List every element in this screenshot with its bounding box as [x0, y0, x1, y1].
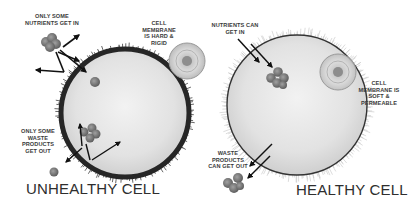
unhealthy-cell-title: UNHEALTHY CELL — [26, 180, 160, 197]
unhealthy-nutrient-inside — [90, 77, 100, 87]
healthy-waste-cluster — [223, 173, 244, 193]
unhealthy-membrane-label: CELL MEMBRANE IS HARD & RIGID — [142, 20, 176, 46]
healthy-cell-title: HEALTHY CELL — [296, 181, 408, 198]
unhealthy-waste-outside — [50, 168, 59, 177]
unhealthy-cell — [36, 33, 205, 183]
healthy-nutrients-label: NUTRIENTS CAN GET IN — [210, 22, 260, 35]
unhealthy-waste-label: ONLY SOME WASTE PRODUCTS GET OUT — [19, 128, 57, 154]
healthy-membrane-label: CELL MEMBRANE IS SOFT & PERMEABLE — [357, 80, 401, 106]
unhealthy-nutrient-cluster — [41, 33, 61, 52]
unhealthy-vacuole — [169, 43, 205, 79]
healthy-waste-label: WASTE PRODUCTS CAN GET OUT — [207, 150, 249, 170]
healthy-vacuole — [320, 54, 356, 90]
unhealthy-nutrients-label: ONLY SOME NUTRIENTS GET IN — [20, 13, 84, 26]
